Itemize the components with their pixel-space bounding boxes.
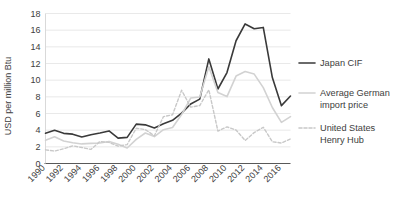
legend: Japan CIFAverage Germanimport priceUnite… — [299, 58, 390, 145]
legend-label-2: Average German — [320, 88, 390, 98]
y-tick-label: 14 — [30, 42, 40, 52]
x-tick-label: 2000 — [116, 163, 137, 184]
legend-label-1: Japan CIF — [320, 58, 363, 68]
y-tick-label: 12 — [30, 59, 40, 69]
x-tick-label: 2016 — [262, 163, 283, 184]
x-tick-label: 1992 — [44, 163, 65, 184]
data-series — [46, 24, 291, 151]
y-tick-label: 18 — [30, 9, 40, 19]
series-line-3 — [46, 90, 291, 151]
x-tick-label: 2010 — [207, 163, 228, 184]
x-axis-ticks: 1990199219941996199820002002200420062008… — [26, 163, 283, 184]
chart-container: 024681012141618 199019921994199619982000… — [0, 0, 399, 209]
x-tick-label: 2008 — [189, 163, 210, 184]
x-tick-label: 2012 — [225, 163, 246, 184]
series-line-1 — [46, 24, 291, 138]
x-tick-label: 2004 — [153, 163, 174, 184]
y-tick-label: 6 — [35, 109, 40, 119]
gridlines — [46, 14, 291, 147]
x-tick-label: 1996 — [80, 163, 101, 184]
y-tick-label: 8 — [35, 92, 40, 102]
x-tick-label: 1994 — [62, 163, 83, 184]
legend-label-3: United States — [320, 123, 376, 133]
line-chart: 024681012141618 199019921994199619982000… — [0, 0, 399, 209]
y-tick-label: 10 — [30, 75, 40, 85]
x-tick-label: 2002 — [135, 163, 156, 184]
y-tick-label: 2 — [35, 142, 40, 152]
y-tick-label: 16 — [30, 25, 40, 35]
legend-label-3-line2: Henry Hub — [320, 135, 364, 145]
series-line-2 — [46, 67, 291, 148]
x-tick-label: 2006 — [171, 163, 192, 184]
y-tick-label: 4 — [35, 125, 40, 135]
x-tick-label: 1998 — [98, 163, 119, 184]
axis-lines — [45, 14, 291, 164]
y-axis-title: USD per million Btu — [3, 57, 13, 136]
legend-label-2-line2: import price — [320, 100, 368, 110]
x-tick-label: 1990 — [26, 163, 47, 184]
x-tick-label: 2014 — [243, 163, 264, 184]
y-axis-ticks: 024681012141618 — [30, 9, 40, 169]
